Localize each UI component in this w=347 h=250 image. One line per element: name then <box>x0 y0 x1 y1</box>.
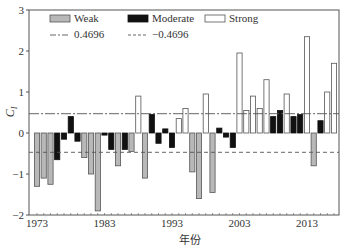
bar-2017 <box>331 63 336 133</box>
bar-2012 <box>298 115 303 134</box>
bar-1993 <box>169 133 174 147</box>
x-tick-label: 1993 <box>161 217 184 229</box>
legend-label: 0.4696 <box>74 28 105 40</box>
bar-1994 <box>176 119 181 133</box>
x-tick-label: 2003 <box>229 217 252 229</box>
legend-item-weak: Weak <box>50 12 99 24</box>
bar-1980 <box>82 133 87 158</box>
legend-item-strong: Strong <box>205 12 259 24</box>
bar-1999 <box>210 133 215 192</box>
bar-1987 <box>129 133 134 151</box>
y-tick-label: 0 <box>19 127 25 139</box>
x-axis-label: 年份 <box>179 233 201 246</box>
y-axis-label: CI <box>3 106 19 117</box>
legend-label: −0.4696 <box>152 28 189 40</box>
bar-2003 <box>237 53 242 133</box>
x-tick-label: 1973 <box>26 217 49 229</box>
bar-1975 <box>48 133 53 184</box>
bar-1984 <box>109 133 114 149</box>
y-tick-label: −1 <box>12 168 24 180</box>
y-tick-label: −2 <box>12 209 24 221</box>
bar-1973 <box>34 133 39 186</box>
bar-2008 <box>271 117 276 133</box>
legend-label: Strong <box>229 12 259 24</box>
bar-2002 <box>230 133 235 147</box>
legend-swatch-icon <box>205 15 225 22</box>
bars-group <box>34 37 336 211</box>
bar-2006 <box>257 108 262 133</box>
bar-2000 <box>217 128 222 133</box>
legend-item-04696: −0.4696 <box>128 28 189 40</box>
legend: WeakModerateStrong0.4696−0.4696 <box>50 12 259 40</box>
bar-1990 <box>149 115 154 134</box>
bar-1979 <box>75 133 80 141</box>
y-axis-label-sub: I <box>10 106 19 110</box>
bar-1977 <box>61 133 66 139</box>
y-tick-label: 2 <box>19 45 25 57</box>
legend-swatch-icon <box>50 15 70 22</box>
bar-2014 <box>311 133 316 166</box>
bar-1992 <box>163 129 168 133</box>
bar-2016 <box>325 92 330 133</box>
bar-2001 <box>223 133 228 137</box>
bar-2011 <box>291 117 296 133</box>
bar-1983 <box>102 133 107 135</box>
bar-chart: −2−10123 19731983199320032013 WeakModera… <box>0 0 347 250</box>
x-tick-label: 2013 <box>296 217 319 229</box>
y-tick-label: 1 <box>19 86 25 98</box>
legend-swatch-icon <box>128 15 148 22</box>
legend-item-04696: 0.4696 <box>50 28 105 40</box>
bar-1986 <box>122 133 127 149</box>
bar-2005 <box>250 96 255 133</box>
bar-1982 <box>95 133 100 211</box>
bar-1978 <box>68 117 73 133</box>
bar-1985 <box>115 133 120 166</box>
bar-2015 <box>318 121 323 133</box>
bar-2013 <box>304 37 309 133</box>
bar-1988 <box>136 96 141 133</box>
bar-1991 <box>156 133 161 143</box>
bar-1974 <box>41 133 46 178</box>
bar-2007 <box>264 80 269 133</box>
legend-label: Moderate <box>152 12 194 24</box>
legend-item-moderate: Moderate <box>128 12 194 24</box>
bar-1997 <box>196 133 201 199</box>
x-tick-label: 1983 <box>94 217 117 229</box>
bar-1976 <box>55 133 60 160</box>
bar-1981 <box>88 133 93 174</box>
bar-1995 <box>183 108 188 133</box>
y-tick-label: 3 <box>19 4 25 16</box>
legend-label: Weak <box>74 12 99 24</box>
bar-1989 <box>142 133 147 178</box>
